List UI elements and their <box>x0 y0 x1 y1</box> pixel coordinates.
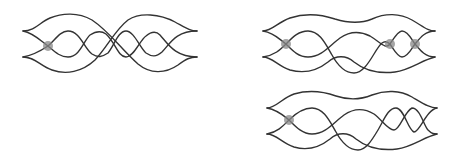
highlight-marker <box>410 39 420 49</box>
highlight-marker <box>284 115 294 125</box>
diagram-bottom-right <box>267 91 437 150</box>
diagram-top-right <box>263 15 435 73</box>
strand-inner-2 <box>263 31 435 73</box>
highlight-marker <box>385 39 395 49</box>
strand-inner-2 <box>267 108 437 150</box>
braid-diagrams-canvas <box>0 0 459 156</box>
strand-outer-top <box>263 15 435 31</box>
strand-outer-bottom <box>263 57 435 73</box>
highlight-marker <box>43 41 53 51</box>
diagram-left <box>23 14 197 72</box>
strand-outer-top <box>267 91 437 108</box>
strand-outer-bottom <box>267 134 437 150</box>
highlight-marker <box>281 39 291 49</box>
